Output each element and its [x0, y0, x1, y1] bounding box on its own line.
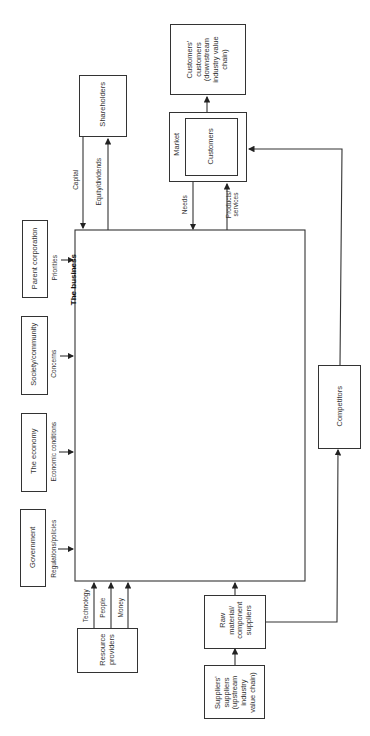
priorities-label: Priorities	[51, 248, 58, 288]
technology-label: Technology	[82, 586, 89, 626]
shareholders-label: Shareholders	[99, 71, 108, 137]
money-label: Money	[117, 588, 124, 628]
market-label: Market	[173, 119, 182, 169]
business-title: The business	[69, 250, 78, 310]
economic-conditions-label: Economic conditions	[50, 417, 57, 487]
customers-label: Customers	[207, 116, 216, 176]
capital-label: Capital	[72, 160, 79, 200]
competitors-label: Competitors	[336, 371, 345, 441]
parent-corporation-box: Parent corporation	[22, 220, 48, 298]
society-community-box: Society/community	[21, 316, 48, 395]
government-box: Government	[20, 509, 46, 587]
competitors-box: Competitors	[318, 365, 361, 449]
customers-customers-label: Customers' customers (downstream industr…	[186, 26, 229, 94]
business-box-outline	[75, 230, 305, 581]
customers-customers-box: Customers' customers (downstream industr…	[170, 24, 246, 95]
resource-providers-label: Resource providers	[99, 625, 116, 675]
market-box: Market Customers	[169, 112, 247, 182]
products-services-label: Products/ services	[225, 184, 240, 224]
parent-corporation-label: Parent corporation	[31, 214, 40, 302]
government-label: Government	[29, 503, 38, 591]
raw-material-suppliers-box: Raw material/ component suppliers	[204, 595, 266, 649]
needs-label: Needs	[181, 185, 188, 225]
raw-material-suppliers-label: Raw material/ component suppliers	[219, 595, 254, 645]
suppliers-suppliers-box: Suppliers' suppliers (upstream industry …	[204, 665, 265, 719]
concerns-label: Concerns	[50, 344, 57, 384]
economy-box: The economy	[21, 413, 47, 492]
people-label: People	[99, 588, 106, 628]
society-community-label: Society/community	[30, 310, 39, 398]
suppliers-suppliers-label: Suppliers' suppliers (upstream industry …	[214, 667, 257, 719]
equity-dividends-label: Equity/dividends	[95, 152, 102, 212]
resource-providers-box: Resource providers	[77, 628, 138, 673]
customers-box: Customers	[185, 118, 238, 176]
regulations-policies-label: Regulations/policies	[50, 512, 57, 586]
economy-label: The economy	[30, 407, 39, 495]
shareholders-box: Shareholders	[79, 75, 127, 137]
